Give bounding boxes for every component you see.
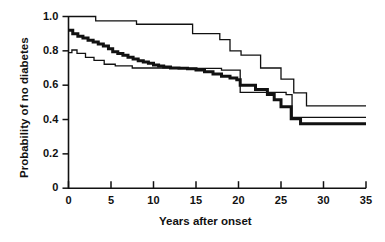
x-axis-ticks: [69, 181, 367, 188]
y-tick-label: 0.6: [43, 78, 59, 90]
x-tick-label: 10: [140, 194, 168, 206]
data-series-group: [69, 17, 367, 124]
x-tick-label: 5: [97, 194, 125, 206]
y-tick-label: 0.4: [43, 113, 59, 125]
chart-figure: 00.20.40.60.81.0 05101520253035 Probabil…: [0, 0, 385, 242]
series-lower-thin-curve: [69, 50, 367, 117]
x-tick-label: 20: [225, 194, 253, 206]
x-tick-label: 35: [352, 194, 380, 206]
axis-group: [63, 16, 367, 188]
x-tick-label: 30: [310, 194, 338, 206]
y-axis-title: Probability of no diabetes: [18, 37, 30, 178]
series-middle-thick-curve: [69, 30, 367, 124]
y-tick-label: 0.2: [43, 147, 59, 159]
y-tick-label: 1.0: [43, 10, 59, 22]
x-tick-label: 15: [182, 194, 210, 206]
y-axis-ticks: [63, 17, 69, 189]
y-tick-label: 0: [52, 181, 58, 193]
x-axis-title: Years after onset: [159, 215, 252, 227]
y-tick-label: 0.8: [43, 44, 59, 56]
x-tick-label: 0: [55, 194, 83, 206]
series-upper-thin-curve: [69, 17, 367, 106]
x-tick-label: 25: [267, 194, 295, 206]
